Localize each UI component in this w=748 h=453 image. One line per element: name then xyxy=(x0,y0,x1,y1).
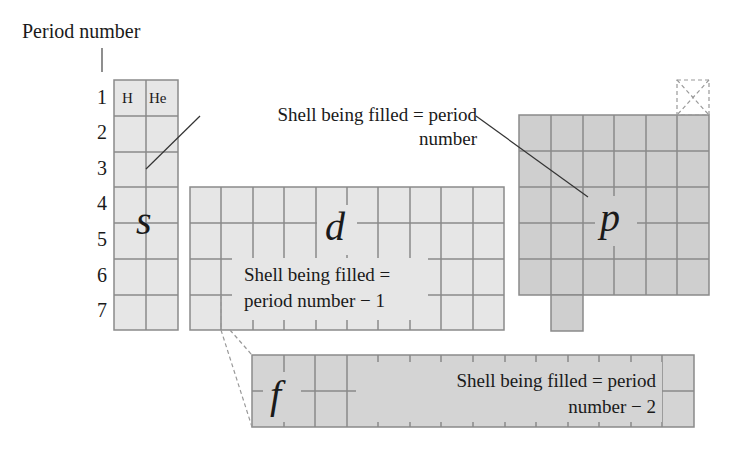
period-number-3: 3 xyxy=(94,157,110,180)
f-annotation-line1: Shell being filled = period xyxy=(360,368,656,394)
d-annotation-line2: period number − 1 xyxy=(244,288,390,314)
element-h: H xyxy=(122,90,133,107)
sp-annotation-line2: number xyxy=(200,127,477,151)
f-block-label: f xyxy=(270,375,281,415)
d-block-label: d xyxy=(325,207,345,247)
period-number-1: 1 xyxy=(94,86,110,109)
element-he: He xyxy=(149,90,167,107)
f-annotation-line2: number − 2 xyxy=(360,394,656,420)
sp-annotation: Shell being filled = period number xyxy=(200,103,477,151)
f-annotation: Shell being filled = period number − 2 xyxy=(360,368,656,420)
d-annotation: Shell being filled = period number − 1 xyxy=(244,262,390,314)
d-annotation-line1: Shell being filled = xyxy=(244,262,390,288)
s-block-label: s xyxy=(136,201,152,241)
period-number-4: 4 xyxy=(94,192,110,215)
period-number-title: Period number xyxy=(22,20,140,42)
period-number-2: 2 xyxy=(94,121,110,144)
p-block-label: p xyxy=(600,198,620,238)
period-number-7: 7 xyxy=(94,299,110,322)
period-number-5: 5 xyxy=(94,228,110,251)
sp-annotation-line1: Shell being filled = period xyxy=(200,103,477,127)
dashed-placeholder-cell xyxy=(677,80,709,115)
period-number-6: 6 xyxy=(94,264,110,287)
